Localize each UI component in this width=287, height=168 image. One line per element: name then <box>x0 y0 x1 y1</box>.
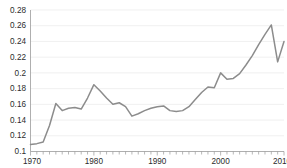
y-axis-tick-label: 0.28 <box>10 6 26 15</box>
y-axis-tick-label: 0.2 <box>15 69 27 78</box>
y-axis-tick-label: 0.22 <box>10 53 26 62</box>
chart-plot-area: 0.10.120.140.160.180.20.220.240.260.2819… <box>0 0 287 168</box>
data-series-line <box>31 25 285 144</box>
y-axis-tick-label: 0.1 <box>15 147 27 156</box>
line-chart: 0.10.120.140.160.180.20.220.240.260.2819… <box>0 0 287 168</box>
y-axis-tick-label: 0.12 <box>10 131 26 140</box>
y-axis-tick-label: 0.16 <box>10 100 26 109</box>
y-axis-tick-label: 0.14 <box>10 116 26 125</box>
x-axis-tick-label: 2000 <box>212 157 231 166</box>
x-axis-tick-label: 1990 <box>148 157 167 166</box>
y-axis-tick-label: 0.24 <box>10 37 26 46</box>
y-axis-tick-label: 0.18 <box>10 84 26 93</box>
x-axis-tick-label: 2010 <box>273 157 287 166</box>
x-axis-tick-label: 1970 <box>23 157 42 166</box>
x-axis-tick-label: 1980 <box>85 157 104 166</box>
y-axis-tick-label: 0.26 <box>10 21 26 30</box>
